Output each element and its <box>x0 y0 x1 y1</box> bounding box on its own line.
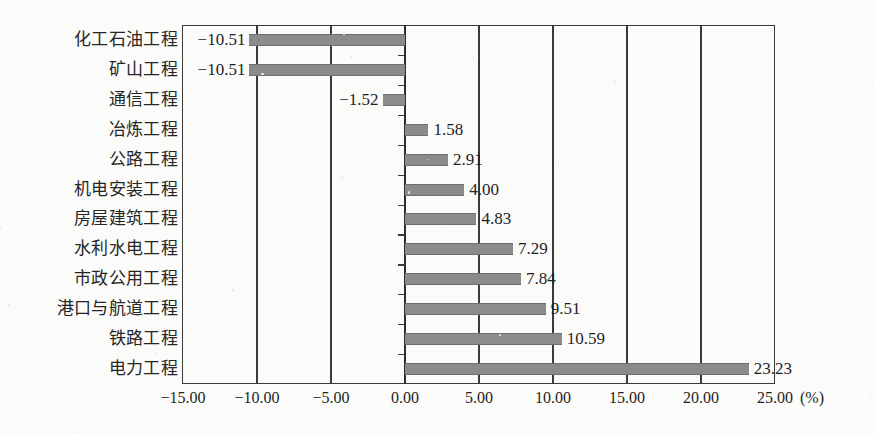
gridline--5 <box>330 25 331 384</box>
value-label: −10.51 <box>198 61 246 78</box>
value-label: 4.00 <box>469 181 499 198</box>
paper-speckle <box>854 222 856 224</box>
category-label: 通信工程 <box>109 91 178 108</box>
x-tick-label: 15.00 <box>609 390 645 406</box>
bar <box>405 213 476 225</box>
axis-tick <box>398 354 405 355</box>
paper-speckle <box>8 304 9 305</box>
value-label: −10.51 <box>198 31 246 48</box>
axis-tick <box>398 324 405 325</box>
paper-speckle <box>861 151 863 153</box>
paper-speckle <box>55 213 57 215</box>
x-tick-label: 25.00 <box>757 390 793 406</box>
gridline-5 <box>478 25 479 384</box>
axis-tick <box>398 145 405 146</box>
bar <box>405 124 428 136</box>
category-label: 铁路工程 <box>109 330 178 347</box>
paper-speckle <box>85 13 86 14</box>
category-label: 水利水电工程 <box>74 240 178 257</box>
value-label: 1.58 <box>433 121 463 138</box>
bar <box>405 273 521 285</box>
bar <box>249 34 405 46</box>
category-label: 公路工程 <box>109 151 178 168</box>
paper-speckle <box>788 196 789 197</box>
bar <box>249 64 405 76</box>
paper-speckle <box>819 8 821 10</box>
axis-tick <box>398 85 405 86</box>
paper-speckle <box>739 320 740 321</box>
category-label: 港口与航道工程 <box>57 300 178 317</box>
paper-speckle <box>871 82 873 84</box>
paper-speckle <box>869 397 871 399</box>
bar <box>405 333 562 345</box>
paper-speckle <box>156 352 158 354</box>
paper-speckle <box>695 376 697 378</box>
paper-speckle <box>391 246 393 248</box>
category-label: 冶炼工程 <box>109 121 178 138</box>
value-label: 4.83 <box>481 210 511 227</box>
category-label: 矿山工程 <box>109 61 178 78</box>
x-tick-label: −5.00 <box>312 390 349 406</box>
paper-speckle <box>225 46 227 48</box>
bar <box>405 363 749 375</box>
x-tick-label: 20.00 <box>683 390 719 406</box>
category-label: 房屋建筑工程 <box>74 210 178 227</box>
axis-tick <box>398 234 405 235</box>
paper-speckle <box>341 177 343 179</box>
paper-speckle <box>614 81 616 83</box>
category-label: 电力工程 <box>109 360 178 377</box>
value-label: 10.59 <box>567 330 605 347</box>
paper-speckle <box>0 228 2 230</box>
bar <box>405 243 513 255</box>
axis-tick <box>398 115 405 116</box>
value-label: 9.51 <box>551 300 581 317</box>
paper-speckle <box>282 153 283 154</box>
paper-speckle <box>391 406 392 407</box>
value-label: 7.29 <box>518 240 548 257</box>
x-tick-label: −10.00 <box>234 390 279 406</box>
axis-tick <box>398 264 405 265</box>
x-tick-label: 10.00 <box>535 390 571 406</box>
value-label: 2.91 <box>453 151 483 168</box>
paper-speckle <box>213 159 215 161</box>
x-tick-label: 5.00 <box>465 390 493 406</box>
gridline-10 <box>552 25 553 384</box>
paper-speckle <box>46 229 47 230</box>
paper-speckle <box>308 278 309 279</box>
bar <box>405 303 546 315</box>
category-label: 市政公用工程 <box>74 270 178 287</box>
bar <box>383 94 405 106</box>
x-tick-label: −15.00 <box>160 390 205 406</box>
category-label: 化工石油工程 <box>74 31 178 48</box>
paper-speckle <box>204 5 205 6</box>
gridline-15 <box>626 25 627 384</box>
x-tick-label: 0.00 <box>391 390 419 406</box>
value-label: −1.52 <box>339 91 378 108</box>
x-axis-unit-label: (%) <box>800 390 824 406</box>
gridline-20 <box>700 25 701 384</box>
paper-speckle <box>275 268 276 269</box>
paper-speckle <box>409 424 410 425</box>
paper-speckle <box>249 429 250 430</box>
paper-speckle <box>91 350 93 352</box>
value-label: 7.84 <box>526 270 556 287</box>
axis-tick <box>398 175 405 176</box>
gridline--10 <box>256 25 257 384</box>
paper-speckle <box>57 428 59 430</box>
bar <box>405 184 464 196</box>
paper-speckle <box>638 178 639 179</box>
axis-tick <box>398 294 405 295</box>
axis-tick <box>398 55 405 56</box>
paper-speckle <box>216 82 217 83</box>
axis-tick <box>398 205 405 206</box>
paper-speckle <box>472 57 474 59</box>
chart-page: 化工石油工程矿山工程通信工程冶炼工程公路工程机电安装工程房屋建筑工程水利水电工程… <box>0 0 875 434</box>
category-label: 机电安装工程 <box>74 181 178 198</box>
paper-speckle <box>78 431 80 433</box>
paper-speckle <box>343 33 345 35</box>
value-label: 23.23 <box>754 360 792 377</box>
bar <box>405 154 448 166</box>
